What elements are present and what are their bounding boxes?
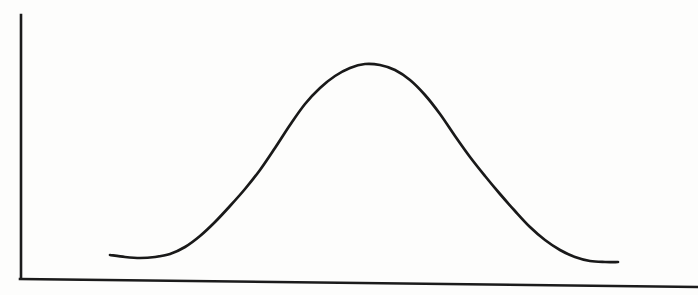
figure-canvas xyxy=(0,0,698,295)
figure-background xyxy=(0,0,698,295)
bell-curve-figure xyxy=(0,0,698,295)
